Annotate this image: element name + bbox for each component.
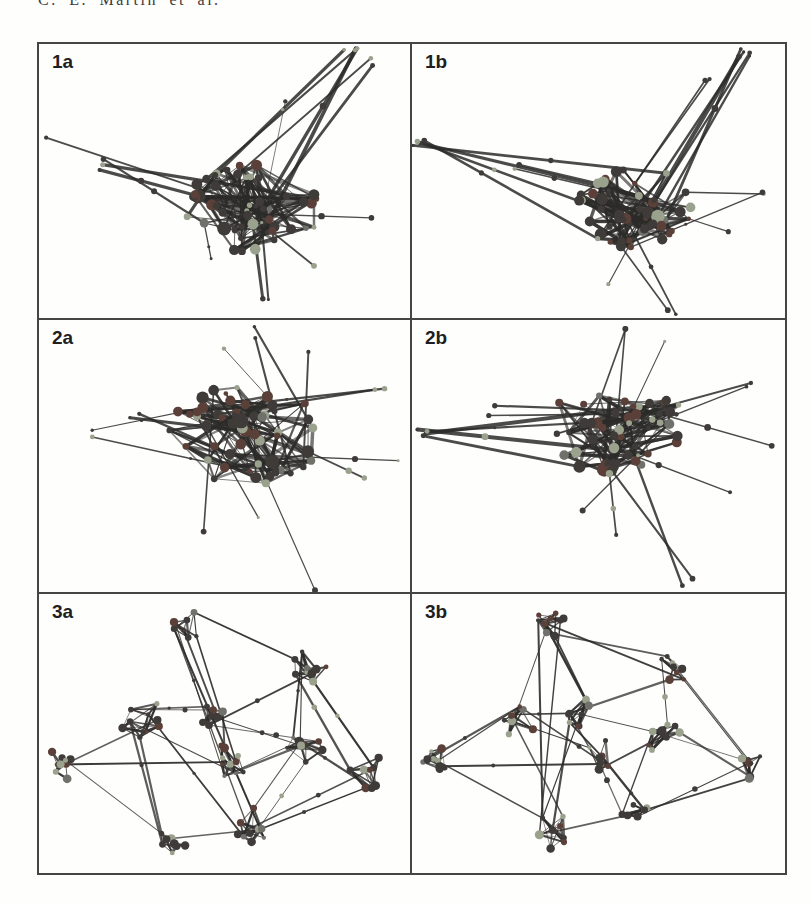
panel-label: 1a <box>52 51 73 73</box>
figure-grid: 1a1b2a2b3a3b <box>37 42 787 875</box>
panel-label: 1b <box>425 51 447 73</box>
figure-panel-1a: 1a <box>39 44 412 320</box>
running-head: C. E. Martin et al. <box>38 0 298 9</box>
figure-panel-3a: 3a <box>39 594 412 873</box>
network-graph <box>412 320 785 592</box>
page: C. E. Martin et al. 1a1b2a2b3a3b <box>0 0 811 905</box>
panel-label: 3b <box>425 601 447 623</box>
figure-panel-2b: 2b <box>412 320 785 594</box>
network-graph <box>412 44 785 318</box>
panel-label: 2a <box>52 327 73 349</box>
figure-panel-3b: 3b <box>412 594 785 873</box>
network-graph <box>39 320 410 592</box>
figure-panel-2a: 2a <box>39 320 412 594</box>
network-graph <box>39 44 410 318</box>
network-graph <box>412 594 785 873</box>
panel-label: 3a <box>52 601 73 623</box>
panel-label: 2b <box>425 327 447 349</box>
network-graph <box>39 594 410 873</box>
running-head-text: C. E. Martin et al. <box>38 0 298 9</box>
figure-panel-1b: 1b <box>412 44 785 320</box>
